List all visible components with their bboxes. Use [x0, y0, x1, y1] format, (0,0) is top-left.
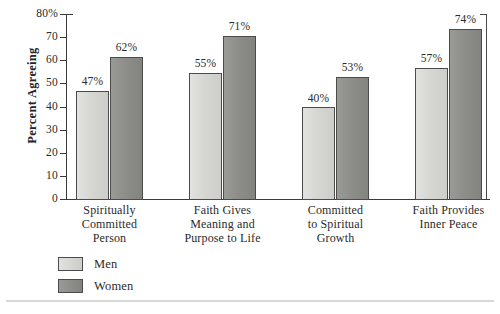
x-axis-category-label-line: Person — [50, 231, 170, 245]
x-axis-category-label-line: Purpose to Life — [163, 231, 283, 245]
y-axis-tick-label: 40 — [4, 101, 58, 113]
bar-men-group-4 — [415, 68, 448, 200]
y-axis-tick-label: 60 — [4, 54, 58, 66]
x-axis-category-label-line: Spiritually — [50, 203, 170, 217]
bar-value-label: 57% — [409, 52, 455, 64]
bar-value-label: 62% — [104, 41, 150, 53]
y-axis-tick-label: 70 — [4, 31, 58, 43]
legend-label: Women — [94, 280, 134, 293]
x-axis-category-label: Faith ProvidesInner Peace — [389, 203, 500, 231]
legend-swatch-men — [58, 257, 83, 271]
bar-value-label: 53% — [330, 61, 376, 73]
bar-value-label: 74% — [443, 13, 489, 25]
bar-men-group-1 — [76, 91, 109, 200]
legend-label: Men — [94, 258, 118, 271]
y-axis-tick-label: 10 — [4, 170, 58, 182]
bar-men-group-2 — [189, 73, 222, 200]
x-axis-category-label-line: Faith Provides — [389, 203, 500, 217]
x-axis-category-label-line: Meaning and — [163, 217, 283, 231]
chart-legend: MenWomen — [58, 254, 134, 298]
x-axis-category-label-line: Inner Peace — [389, 217, 500, 231]
bar-men-group-3 — [302, 107, 335, 200]
legend-swatch-women — [58, 279, 83, 293]
bottom-divider — [6, 300, 494, 302]
x-axis-category-label-line: to Spiritual — [276, 217, 396, 231]
bar-chart: Percent Agreeing 80%706050403020100 47%5… — [0, 0, 500, 314]
x-axis-category-label-line: Faith Gives — [163, 203, 283, 217]
x-axis-category-label-line: Growth — [276, 231, 396, 245]
x-axis-category-label-line: Committed — [276, 203, 396, 217]
bar-value-label: 71% — [217, 20, 263, 32]
x-axis-category-label: SpirituallyCommittedPerson — [50, 203, 170, 245]
y-axis-tick-label: 30 — [4, 124, 58, 136]
x-axis-category-label: Faith GivesMeaning andPurpose to Life — [163, 203, 283, 245]
bar-value-label: 55% — [183, 57, 229, 69]
bar-value-label: 40% — [296, 92, 342, 104]
legend-item-men: Men — [58, 254, 134, 274]
y-axis-tick-label: 80% — [4, 8, 58, 20]
y-axis-tick-label: 20 — [4, 147, 58, 159]
x-axis-category-label-line: Committed — [50, 217, 170, 231]
legend-item-women: Women — [58, 276, 134, 296]
bar-value-label: 47% — [70, 75, 116, 87]
x-axis-category-label: Committedto SpiritualGrowth — [276, 203, 396, 245]
y-axis-tick-label: 50 — [4, 77, 58, 89]
